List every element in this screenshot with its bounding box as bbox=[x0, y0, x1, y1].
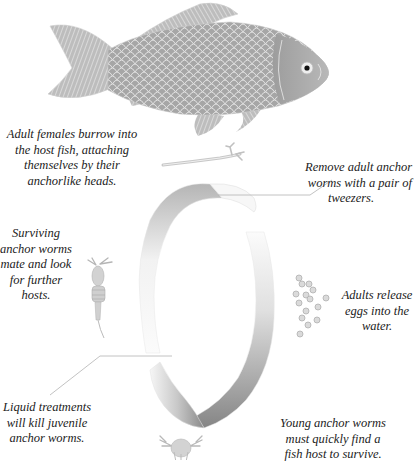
larva-icon bbox=[160, 436, 202, 460]
caption-line: Adult females burrow into bbox=[2, 127, 142, 143]
caption-line: for further bbox=[0, 273, 72, 289]
caption-line: anchor worms bbox=[0, 242, 72, 258]
caption-line: eggs into the bbox=[336, 304, 418, 320]
lifecycle-ribbon-ring bbox=[139, 184, 274, 428]
caption-line: must quickly find a bbox=[268, 432, 398, 448]
caption-line: hosts. bbox=[0, 288, 72, 304]
caption-adult-females: Adult females burrow into the host fish,… bbox=[2, 127, 142, 189]
caption-line: Surviving bbox=[0, 226, 72, 242]
caption-line: themselves by their bbox=[2, 158, 142, 174]
caption-line: anchor worms. bbox=[0, 431, 94, 447]
caption-line: Adults release bbox=[336, 288, 418, 304]
adult-anchor-worm-icon bbox=[163, 143, 244, 165]
caption-line: Remove adult anchor bbox=[270, 160, 412, 176]
caption-line: fish host to survive. bbox=[268, 447, 398, 463]
caption-young: Young anchor worms must quickly find a f… bbox=[268, 416, 398, 463]
caption-line: water. bbox=[336, 319, 418, 335]
pelvic-fin-icon bbox=[194, 112, 224, 136]
caption-line: will kill juvenile bbox=[0, 416, 94, 432]
copepod-icon bbox=[88, 258, 112, 338]
tail-fin-icon bbox=[48, 25, 112, 98]
eggs-icon bbox=[293, 275, 329, 337]
caption-line: tweezers. bbox=[270, 191, 412, 207]
caption-tweezers: Remove adult anchor worms with a pair of… bbox=[270, 160, 412, 207]
caption-line: Young anchor worms bbox=[268, 416, 398, 432]
caption-line: anchorlike heads. bbox=[2, 174, 142, 190]
caption-surviving: Surviving anchor worms mate and look for… bbox=[0, 226, 72, 304]
caption-liquid-treatment: Liquid treatments will kill juvenile anc… bbox=[0, 400, 94, 447]
goldfish-illustration bbox=[48, 3, 329, 136]
caption-line: Liquid treatments bbox=[0, 400, 94, 416]
caption-line: worms with a pair of bbox=[270, 176, 412, 192]
caption-eggs: Adults release eggs into the water. bbox=[336, 288, 418, 335]
caption-line: mate and look bbox=[0, 257, 72, 273]
caption-line: the host fish, attaching bbox=[2, 143, 142, 159]
